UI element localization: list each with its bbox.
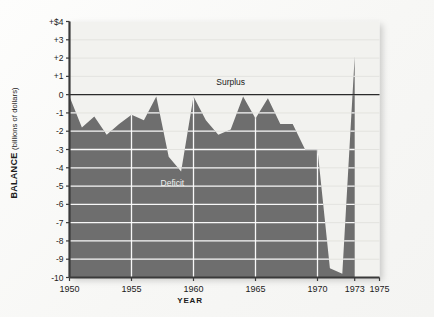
- y-tick-label: -8: [56, 236, 64, 246]
- deficit-label: Deficit: [161, 178, 185, 188]
- y-tick-label: -5: [56, 181, 64, 191]
- y-axis-ticks: +$4+3+2+10-1-2-3-4-5-6-7-8-9-10: [49, 17, 69, 283]
- y-tick-label: -3: [56, 145, 64, 155]
- x-tick-label: 1950: [59, 284, 79, 294]
- y-tick-label: -1: [56, 108, 64, 118]
- x-tick-label: 1965: [245, 284, 265, 294]
- y-tick-label: +3: [54, 35, 64, 45]
- x-tick-label: 1973: [345, 284, 365, 294]
- x-tick-label: 1970: [307, 284, 327, 294]
- y-tick-label: -10: [51, 273, 64, 283]
- y-tick-label: +2: [54, 53, 64, 63]
- x-tick-label: 1955: [121, 284, 141, 294]
- y-tick-label: -4: [56, 163, 64, 173]
- y-tick-label: 0: [59, 90, 64, 100]
- chart-figure: +$4+3+2+10-1-2-3-4-5-6-7-8-9-10 19501955…: [0, 0, 434, 317]
- y-tick-label: +1: [54, 71, 64, 81]
- y-tick-label: +$4: [49, 17, 64, 27]
- y-tick-label: -2: [56, 126, 64, 136]
- x-tick-label: 1975: [369, 284, 389, 294]
- y-tick-label: -6: [56, 199, 64, 209]
- x-axis-ticks: 1950195519601965197019731975: [59, 278, 389, 294]
- surplus-label: Surplus: [216, 77, 245, 87]
- x-tick-label: 1960: [183, 284, 203, 294]
- balance-of-payments-area-chart: +$4+3+2+10-1-2-3-4-5-6-7-8-9-10 19501955…: [0, 0, 434, 317]
- y-tick-label: -7: [56, 218, 64, 228]
- y-tick-label: -9: [56, 254, 64, 264]
